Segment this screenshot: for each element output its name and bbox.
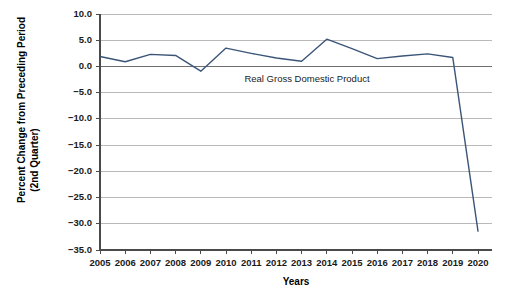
x-tick-group: 2005200620072008200920102011201220132014… xyxy=(89,250,488,268)
x-tick-label: 2005 xyxy=(89,257,111,268)
x-tick-label: 2020 xyxy=(467,257,488,268)
y-tick-label: −20.0 xyxy=(68,165,92,176)
x-tick-label: 2017 xyxy=(392,257,413,268)
series-annotation-label: Real Gross Domestic Product xyxy=(244,73,369,84)
y-tick-label: 5.0 xyxy=(79,34,92,45)
y-axis-group: 10.05.00.0−5.0−10.0−15.0−20.0−25.0−30.0−… xyxy=(68,8,100,255)
x-tick-label: 2007 xyxy=(140,257,161,268)
y-axis-title-line2: (2nd Quarter) xyxy=(29,128,40,191)
x-tick-label: 2019 xyxy=(442,257,463,268)
x-tick-label: 2018 xyxy=(417,257,438,268)
gridlines-group xyxy=(100,14,492,250)
series-line-real-gdp xyxy=(100,39,478,231)
y-tick-group: 10.05.00.0−5.0−10.0−15.0−20.0−25.0−30.0−… xyxy=(68,8,100,255)
y-axis-title-line1: Percent Change from Preceding Period xyxy=(16,17,27,203)
y-tick-label: −10.0 xyxy=(68,112,92,123)
x-tick-label: 2009 xyxy=(190,257,211,268)
x-tick-label: 2013 xyxy=(291,257,312,268)
x-tick-label: 2014 xyxy=(316,257,338,268)
x-tick-label: 2008 xyxy=(165,257,186,268)
y-tick-label: −15.0 xyxy=(68,139,92,150)
x-tick-label: 2016 xyxy=(367,257,388,268)
data-series-group xyxy=(100,39,478,231)
y-tick-label: −30.0 xyxy=(68,217,92,228)
chart-figure: 10.05.00.0−5.0−10.0−15.0−20.0−25.0−30.0−… xyxy=(0,0,512,297)
y-tick-label: −35.0 xyxy=(68,244,92,255)
x-tick-label: 2006 xyxy=(115,257,136,268)
y-tick-label: 0.0 xyxy=(79,60,92,71)
line-chart-canvas: 10.05.00.0−5.0−10.0−15.0−20.0−25.0−30.0−… xyxy=(0,0,512,297)
x-tick-label: 2015 xyxy=(341,257,363,268)
x-axis-title: Years xyxy=(283,276,310,287)
y-tick-label: 10.0 xyxy=(74,8,93,19)
x-tick-label: 2010 xyxy=(215,257,236,268)
y-tick-label: −5.0 xyxy=(73,86,92,97)
y-tick-label: −25.0 xyxy=(68,191,92,202)
x-tick-label: 2012 xyxy=(266,257,287,268)
x-tick-label: 2011 xyxy=(241,257,262,268)
x-axis-group: 2005200620072008200920102011201220132014… xyxy=(89,250,492,268)
